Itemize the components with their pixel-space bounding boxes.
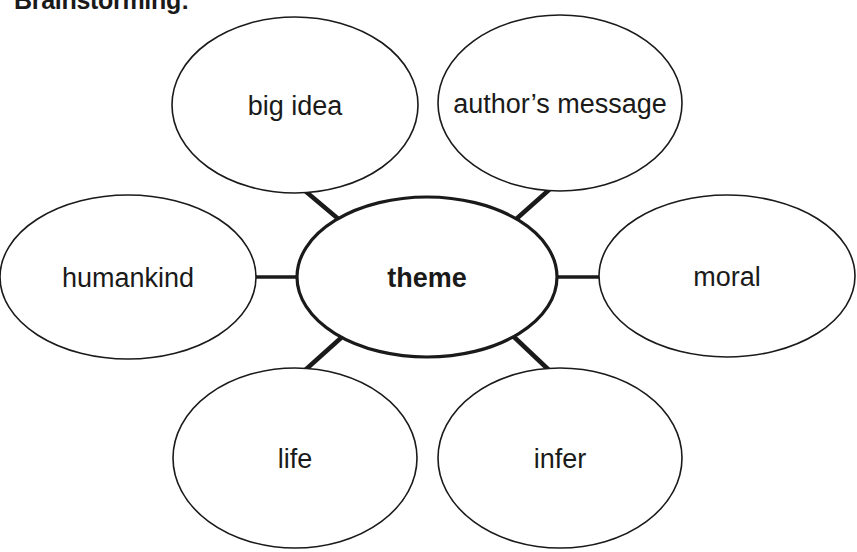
connector-line: [304, 190, 342, 222]
connector-line: [303, 337, 342, 372]
connector-line: [514, 189, 550, 221]
node-label-humankind: humankind: [62, 263, 194, 294]
node-label-moral: moral: [693, 262, 761, 293]
node-label-big-idea: big idea: [248, 91, 343, 122]
page-title: Brainstorming:: [14, 0, 189, 15]
node-label-theme: theme: [387, 263, 467, 294]
connector-line: [513, 336, 551, 372]
node-label-life: life: [278, 444, 313, 475]
brainstorming-word-web: Brainstorming: big ideaauthor’s messageh…: [0, 0, 857, 552]
node-label-authors-message: author’s message: [453, 89, 667, 120]
node-label-infer: infer: [534, 444, 587, 475]
